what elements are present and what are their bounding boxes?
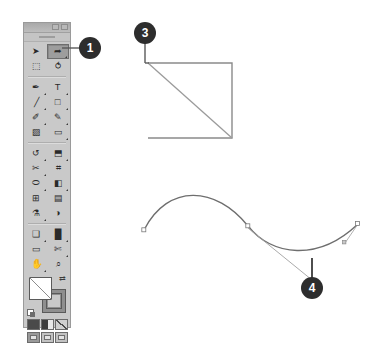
tool-blend[interactable]: ◑ — [47, 206, 69, 221]
tool-mesh[interactable]: ⊞ — [25, 191, 47, 206]
tools-row: ✐ ✎ — [25, 110, 69, 125]
normal-screen-mode-button[interactable] — [27, 332, 40, 343]
gradient-paint-mode-button[interactable] — [41, 319, 54, 330]
symbol-sprayer-tool-icon: ❑ — [32, 230, 40, 239]
artboard-tool-icon: ▭ — [31, 245, 40, 254]
lasso-tool-icon: ⥀ — [55, 62, 61, 71]
callout-4: 4 — [301, 277, 323, 299]
none-paint-mode-button[interactable] — [55, 319, 68, 330]
tool-shape-builder[interactable]: ⬭ — [25, 176, 47, 191]
selection-tool-icon: ➤ — [32, 47, 40, 56]
rectangle-with-diagonal-shape — [148, 63, 232, 138]
hand-tool-icon: ✋ — [30, 260, 42, 269]
tool-symbol-sprayer[interactable]: ❑ — [25, 227, 47, 242]
tool-blob-brush[interactable]: ▨ — [25, 125, 47, 140]
tool-type[interactable]: T — [47, 80, 69, 95]
full-screen-mode-button[interactable] — [55, 332, 68, 343]
tools-row: ⊞ ▤ — [25, 191, 69, 206]
magic-wand-tool-icon: ⬚ — [31, 62, 40, 71]
tool-pen[interactable]: ✒ — [25, 80, 47, 95]
scale-tool-icon: ⬒ — [53, 149, 62, 158]
tool-line-segment[interactable]: ╱ — [25, 95, 47, 110]
fill-stroke-controls[interactable]: ⇄ — [24, 275, 70, 317]
callout-1: 1 — [79, 37, 101, 59]
width-tool-icon: ✂ — [32, 164, 40, 173]
tool-lasso[interactable]: ⥀ — [47, 59, 69, 74]
anchor-point — [142, 228, 146, 232]
zoom-tool-icon: ⌕ — [55, 260, 60, 269]
tools-row: ↺ ⬒ — [25, 146, 69, 161]
tool-eraser[interactable]: ▭ — [47, 125, 69, 140]
diagonal-path — [148, 63, 232, 138]
close-icon[interactable] — [61, 24, 68, 30]
flyout-corner-icon — [65, 56, 67, 58]
tools-row: ✋ ⌕ — [25, 257, 69, 272]
tool-column-graph[interactable]: █ — [47, 227, 69, 242]
tools-divider — [28, 223, 66, 225]
anchor-point — [356, 222, 360, 226]
tools-panel-grabber[interactable] — [24, 33, 70, 42]
tool-perspective-grid[interactable]: ◧ — [47, 176, 69, 191]
tools-row: ❑ █ — [25, 227, 69, 242]
paint-mode-buttons[interactable] — [24, 319, 70, 330]
color-paint-mode-button[interactable] — [27, 319, 40, 330]
fill-swatch[interactable] — [29, 277, 52, 300]
shape-builder-tool-icon: ⬭ — [32, 179, 40, 188]
flyout-corner-icon — [44, 270, 46, 272]
tools-grid: ➤ ➦ ⬚ ⥀ ✒ T ╱ □ ✐ ✎ — [24, 42, 70, 272]
tool-slice[interactable]: ✄ — [47, 242, 69, 257]
curve-path — [144, 195, 358, 250]
column-graph-tool-icon: █ — [55, 230, 62, 239]
gradient-tool-icon: ▤ — [53, 194, 62, 203]
tools-panel-titlebar[interactable] — [24, 23, 70, 33]
tool-eyedropper[interactable]: ⚗ — [25, 206, 47, 221]
full-screen-with-menu-button[interactable] — [41, 332, 54, 343]
tools-row: ▨ ▭ — [25, 125, 69, 140]
swap-fill-stroke-icon[interactable]: ⇄ — [59, 275, 66, 283]
type-tool-icon: T — [55, 83, 61, 92]
perspective-grid-tool-icon: ◧ — [53, 179, 62, 188]
tools-row: ▭ ✄ — [25, 242, 69, 257]
tool-free-transform[interactable]: ⌗ — [47, 161, 69, 176]
tools-row: ➤ ➦ — [25, 44, 69, 59]
tools-row: ╱ □ — [25, 95, 69, 110]
default-fill-stroke-icon[interactable] — [27, 309, 34, 316]
tool-direct-selection[interactable]: ➦ — [47, 44, 69, 59]
direction-handle-line — [345, 224, 358, 243]
rectangle-path — [148, 63, 232, 138]
mesh-tool-icon: ⊞ — [32, 194, 40, 203]
rotate-tool-icon: ↺ — [32, 149, 40, 158]
tool-magic-wand[interactable]: ⬚ — [25, 59, 47, 74]
tools-row: ⬭ ◧ — [25, 176, 69, 191]
screen-mode-buttons[interactable] — [24, 332, 70, 343]
tools-panel-window-buttons[interactable] — [52, 24, 68, 30]
tool-width[interactable]: ✂ — [25, 161, 47, 176]
blend-tool-icon: ◑ — [55, 209, 61, 218]
tool-rectangle[interactable]: □ — [47, 95, 69, 110]
paintbrush-tool-icon: ✐ — [32, 113, 40, 122]
slice-tool-icon: ✄ — [54, 245, 62, 254]
tools-panel[interactable]: ➤ ➦ ⬚ ⥀ ✒ T ╱ □ ✐ ✎ — [23, 22, 71, 328]
tool-pencil[interactable]: ✎ — [47, 110, 69, 125]
tool-gradient[interactable]: ▤ — [47, 191, 69, 206]
direction-point — [343, 241, 346, 244]
tool-zoom[interactable]: ⌕ — [47, 257, 69, 272]
eyedropper-tool-icon: ⚗ — [32, 209, 40, 218]
tool-hand[interactable]: ✋ — [25, 257, 47, 272]
tool-selection[interactable]: ➤ — [25, 44, 47, 59]
anchor-point — [246, 224, 250, 228]
tool-rotate[interactable]: ↺ — [25, 146, 47, 161]
pen-tool-icon: ✒ — [32, 83, 40, 92]
tools-row: ✂ ⌗ — [25, 161, 69, 176]
eraser-tool-icon: ▭ — [53, 128, 62, 137]
tool-scale[interactable]: ⬒ — [47, 146, 69, 161]
tool-paintbrush[interactable]: ✐ — [25, 110, 47, 125]
tool-artboard[interactable]: ▭ — [25, 242, 47, 257]
free-transform-tool-icon: ⌗ — [55, 164, 60, 173]
tools-row: ⬚ ⥀ — [25, 59, 69, 74]
minimize-icon[interactable] — [52, 24, 59, 30]
tools-divider — [28, 142, 66, 144]
tools-row: ⚗ ◑ — [25, 206, 69, 221]
flyout-corner-icon — [66, 138, 68, 140]
callout-3: 3 — [134, 22, 156, 44]
